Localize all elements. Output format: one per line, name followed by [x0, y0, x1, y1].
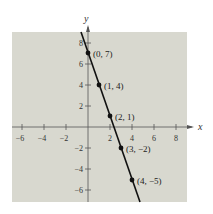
svg-text:8: 8 [174, 134, 178, 143]
svg-text:−6: −6 [16, 134, 25, 143]
y-axis-arrow-icon [86, 25, 90, 32]
svg-text:−6: −6 [74, 186, 83, 195]
chart: x y −6 −4 −2 2 4 6 8 8 6 4 2 −2 −4 −6 [0, 0, 213, 214]
svg-text:6: 6 [152, 134, 156, 143]
svg-text:(0, 7): (0, 7) [93, 49, 113, 59]
svg-text:2: 2 [108, 134, 112, 143]
svg-text:(2, 1): (2, 1) [115, 112, 135, 122]
x-axis-label: x [197, 121, 203, 132]
svg-text:4: 4 [130, 134, 134, 143]
svg-text:−2: −2 [74, 144, 83, 153]
x-axis-arrow-icon [187, 125, 194, 129]
svg-text:4: 4 [79, 81, 83, 90]
svg-text:(3, −2): (3, −2) [126, 144, 151, 154]
svg-text:(4, −5): (4, −5) [137, 176, 162, 186]
svg-text:2: 2 [79, 102, 83, 111]
y-axis-label: y [83, 13, 89, 24]
svg-text:−2: −2 [60, 134, 69, 143]
svg-text:(1, 4): (1, 4) [104, 81, 124, 91]
svg-text:8: 8 [79, 39, 83, 48]
svg-text:6: 6 [79, 60, 83, 69]
svg-text:−4: −4 [74, 165, 83, 174]
svg-text:−4: −4 [38, 134, 47, 143]
